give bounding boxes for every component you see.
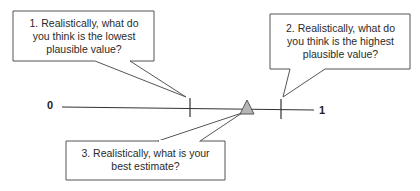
callout-best-tail [158, 113, 242, 141]
scale-min-label: 0 [47, 99, 53, 111]
best-estimate-marker-icon [240, 100, 254, 114]
callout-lowest-line-3: plausible value? [14, 43, 154, 56]
callout-highest-text: 2. Realistically, what do you think is t… [271, 22, 410, 61]
callout-best-line-1: 3. Realistically, what is your [66, 147, 225, 160]
callout-highest-line-3: plausible value? [271, 48, 410, 61]
callout-lowest-line-2: you think is the lowest [14, 30, 154, 43]
callout-lowest-text: 1. Realistically, what do you think is t… [14, 17, 154, 56]
scale-line [62, 107, 314, 110]
scale-max-label: 1 [319, 104, 325, 116]
callout-highest-line-1: 2. Realistically, what do [271, 22, 410, 35]
callout-best-text: 3. Realistically, what is your best esti… [66, 147, 225, 173]
callout-highest-line-2: you think is the highest [271, 35, 410, 48]
callout-lowest-line-1: 1. Realistically, what do [14, 17, 154, 30]
callout-best-line-2: best estimate? [66, 160, 225, 173]
